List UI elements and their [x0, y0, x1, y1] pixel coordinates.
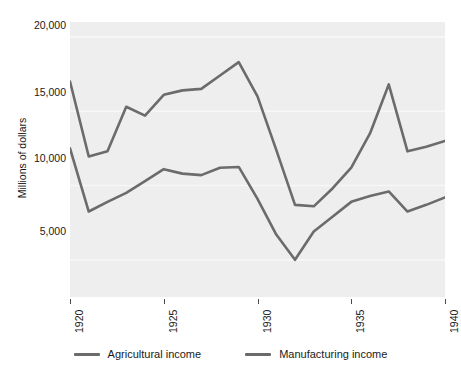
- legend-label: Manufacturing income: [279, 348, 387, 360]
- x-tick-label: 1940: [449, 310, 460, 333]
- legend-item-agricultural-income: Agricultural income: [74, 348, 202, 360]
- x-tick-mark: [164, 299, 165, 304]
- legend-item-manufacturing-income: Manufacturing income: [245, 348, 387, 360]
- chart-legend: Agricultural income Manufacturing income: [0, 348, 461, 360]
- chart-figure: Millions of dollars 20,000 15,000 10,000…: [0, 0, 461, 376]
- legend-line-swatch-icon: [245, 353, 271, 356]
- x-tick-mark: [70, 299, 71, 304]
- x-tick-label: 1930: [262, 310, 273, 333]
- legend-line-swatch-icon: [74, 353, 100, 356]
- legend-label: Agricultural income: [108, 348, 202, 360]
- x-tick-mark: [258, 299, 259, 304]
- x-tick-label: 1925: [168, 310, 179, 333]
- x-axis: 19201925193019351940: [0, 0, 461, 376]
- x-tick-label: 1920: [74, 310, 85, 333]
- x-tick-label: 1935: [355, 310, 366, 333]
- x-tick-mark: [351, 299, 352, 304]
- x-tick-mark: [445, 299, 446, 304]
